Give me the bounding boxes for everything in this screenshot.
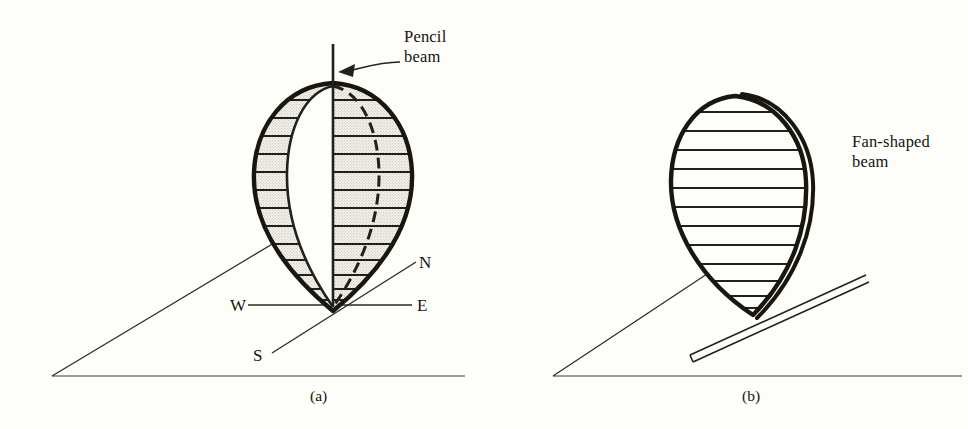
pencil-beam-label: Pencil beam (404, 27, 446, 67)
fan-beam-label: Fan-shaped beam (852, 132, 930, 172)
figure-page: Pencil beam Fan-shaped beam W E N S (a) … (0, 0, 968, 429)
fan-beam-end-cap (690, 355, 693, 362)
compass-label-south: S (253, 347, 262, 364)
compass-label-west: W (230, 297, 246, 314)
panel-caption-b: (b) (742, 388, 760, 404)
panel-caption-a: (a) (310, 388, 327, 404)
fan-beam-edge-lower (693, 282, 869, 362)
compass-label-east: E (417, 297, 427, 314)
compass-label-north: N (419, 254, 431, 271)
panel-a (52, 44, 465, 376)
radar-beam-figure (0, 0, 968, 429)
pencil-beam-arrow (352, 62, 400, 70)
ramp-line-b (553, 274, 707, 376)
pencil-beam-arrowhead (338, 64, 355, 77)
